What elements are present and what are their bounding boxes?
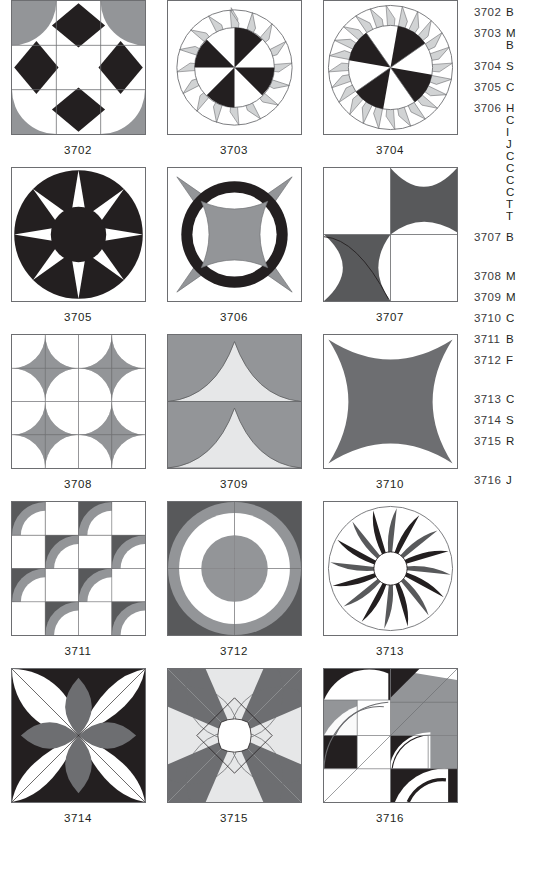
index-entry-3703[interactable]: 3703 M	[474, 27, 542, 39]
spacer	[474, 405, 542, 414]
block-image-3715[interactable]	[167, 668, 302, 803]
index-entry-3711[interactable]: 3711 B	[474, 333, 542, 345]
index-label: M	[506, 291, 516, 303]
index-label: M	[506, 27, 516, 39]
spacer	[474, 51, 542, 60]
index-entry-3707[interactable]: 3707 B	[474, 231, 542, 243]
block-image-3704[interactable]	[323, 0, 458, 135]
spacer	[474, 324, 542, 333]
index-label-continuation: C	[506, 186, 542, 198]
index-entry-3705[interactable]: 3705 C	[474, 81, 542, 93]
block-caption: 3713	[376, 645, 404, 657]
index-entry-3704[interactable]: 3704 S	[474, 60, 542, 72]
index-label-continuation: T	[506, 210, 542, 222]
spacer	[474, 18, 542, 27]
block-cell-3709[interactable]: 3709	[156, 334, 312, 501]
index-number: 3712	[474, 354, 501, 366]
block-image-3710[interactable]	[323, 334, 458, 469]
index-number: 3711	[474, 333, 501, 345]
index-entry-3708[interactable]: 3708 M	[474, 270, 542, 282]
block-caption: 3714	[64, 812, 92, 824]
gallery-row: 3708 3709	[0, 334, 470, 501]
block-cell-3710[interactable]: 3710	[312, 334, 468, 501]
block-image-3707[interactable]	[323, 167, 458, 302]
index-entry-3713[interactable]: 3713 C	[474, 393, 542, 405]
block-image-3713[interactable]	[323, 501, 458, 636]
index-label: C	[506, 393, 514, 405]
block-caption: 3710	[376, 478, 404, 490]
block-image-3716[interactable]	[323, 668, 458, 803]
index-label: S	[506, 414, 514, 426]
index-number: 3714	[474, 414, 501, 426]
block-caption: 3705	[64, 311, 92, 323]
spacer	[474, 243, 542, 270]
block-cell-3704[interactable]: 3704	[312, 0, 468, 167]
gallery-row: 3711	[0, 501, 470, 668]
index-label: J	[506, 474, 512, 486]
index-number: 3706	[474, 102, 501, 114]
gallery-row: 3714	[0, 668, 470, 835]
block-image-3708[interactable]	[11, 334, 146, 469]
index-entry-3712[interactable]: 3712 F	[474, 354, 542, 366]
spacer	[474, 222, 542, 231]
block-caption: 3716	[376, 812, 404, 824]
catalog-page: 3702	[0, 0, 542, 896]
index-entry-3702[interactable]: 3702 B	[474, 6, 542, 18]
index-label-continuation: C	[506, 162, 542, 174]
spacer	[474, 447, 542, 474]
block-caption: 3703	[220, 144, 248, 156]
block-caption: 3704	[376, 144, 404, 156]
block-image-3711[interactable]	[11, 501, 146, 636]
index-entry-3709[interactable]: 3709 M	[474, 291, 542, 303]
index-number: 3708	[474, 270, 501, 282]
index-number: 3713	[474, 393, 501, 405]
block-image-3702[interactable]	[11, 0, 146, 135]
block-cell-3712[interactable]: 3712	[156, 501, 312, 668]
index-label-continuation: B	[506, 39, 542, 51]
index-label: M	[506, 270, 516, 282]
block-cell-3715[interactable]: 3715	[156, 668, 312, 835]
block-cell-3711[interactable]: 3711	[0, 501, 156, 668]
block-cell-3714[interactable]: 3714	[0, 668, 156, 835]
spacer	[474, 282, 542, 291]
spacer	[474, 345, 542, 354]
index-number: 3703	[474, 27, 501, 39]
index-number: 3709	[474, 291, 501, 303]
spacer	[474, 366, 542, 393]
index-label: H	[506, 102, 514, 114]
block-image-3712[interactable]	[167, 501, 302, 636]
block-caption: 3706	[220, 311, 248, 323]
block-image-3703[interactable]	[167, 0, 302, 135]
block-cell-3707[interactable]: 3707	[312, 167, 468, 334]
block-image-3705[interactable]	[11, 167, 146, 302]
block-cell-3716[interactable]: 3716	[312, 668, 468, 835]
index-entry-3716[interactable]: 3716 J	[474, 474, 542, 486]
block-caption: 3702	[64, 144, 92, 156]
block-cell-3705[interactable]: 3705	[0, 167, 156, 334]
index-label-continuation: C	[506, 114, 542, 126]
block-cell-3703[interactable]: 3703	[156, 0, 312, 167]
index-entry-3714[interactable]: 3714 S	[474, 414, 542, 426]
index-number: 3702	[474, 6, 501, 18]
index-entry-3715[interactable]: 3715 R	[474, 435, 542, 447]
index-label: C	[506, 312, 514, 324]
block-cell-3713[interactable]: 3713	[312, 501, 468, 668]
index-label-continuation: T	[506, 198, 542, 210]
index-label-continuation: I	[506, 126, 542, 138]
index-entry-3710[interactable]: 3710 C	[474, 312, 542, 324]
index-label: B	[506, 231, 514, 243]
block-cell-3702[interactable]: 3702	[0, 0, 156, 167]
pattern-index-column: 3702 B 3703 M B 3704 S 3705 C 3706 H C I…	[474, 0, 542, 896]
spacer	[474, 72, 542, 81]
block-cell-3708[interactable]: 3708	[0, 334, 156, 501]
block-image-3714[interactable]	[11, 668, 146, 803]
spacer	[474, 303, 542, 312]
index-entry-3706[interactable]: 3706 H	[474, 102, 542, 114]
index-label: B	[506, 333, 514, 345]
block-caption: 3712	[220, 645, 248, 657]
block-image-3709[interactable]	[167, 334, 302, 469]
index-number: 3707	[474, 231, 501, 243]
index-number: 3705	[474, 81, 501, 93]
block-cell-3706[interactable]: 3706	[156, 167, 312, 334]
block-image-3706[interactable]	[167, 167, 302, 302]
